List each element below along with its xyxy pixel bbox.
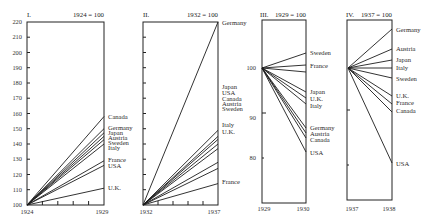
panel-4-lines xyxy=(348,29,392,163)
panel-2-roman: II. xyxy=(143,11,150,18)
xtick-end: 1937 xyxy=(208,208,222,215)
panel-1-base: 1924 = 100 xyxy=(73,11,105,18)
ytick: 100 xyxy=(246,64,256,71)
series-label: Japan xyxy=(396,56,412,63)
panel-4-frame xyxy=(347,20,392,200)
ytick: 190 xyxy=(12,64,22,71)
ytick: 80 xyxy=(250,154,256,161)
panel-1-ytick-labels: 220 210 200 190 180 170 160 150 140 130 … xyxy=(12,18,22,208)
series-label: France xyxy=(222,178,240,185)
series-label: Sweden xyxy=(310,49,332,56)
series-label: Italy xyxy=(108,144,121,151)
series-label: Canada xyxy=(108,113,128,120)
ytick: 110 xyxy=(13,186,22,193)
series-label: USA xyxy=(396,160,409,167)
panel-3-frame xyxy=(262,20,306,203)
series-label: Germany xyxy=(396,26,421,33)
xtick-start: 1932 xyxy=(140,208,153,215)
panel-1-frame xyxy=(27,22,104,205)
panel-1: I. 1924 = 100 220 210 200 190 180 170 16… xyxy=(12,11,133,215)
series-label: Austria xyxy=(396,45,415,52)
panel-1-roman: I. xyxy=(27,11,31,18)
panel-4-base: 1937 = 100 xyxy=(361,11,393,18)
panel-4: IV. 1937 = 100 Germany Austria Japan Ita… xyxy=(346,11,422,212)
series-label: France xyxy=(396,99,414,106)
ytick: 160 xyxy=(12,110,22,117)
series-label: U.K. xyxy=(396,92,409,99)
index-charts: I. 1924 = 100 220 210 200 190 180 170 16… xyxy=(0,0,433,221)
series-label: Sweden xyxy=(396,75,418,82)
ytick: 200 xyxy=(12,49,22,56)
series-label: Canada xyxy=(396,107,416,114)
series-label: Sweden xyxy=(222,105,244,112)
xtick-end: 1938 xyxy=(383,205,396,212)
panel-2-lines xyxy=(143,22,218,205)
series-label: France xyxy=(310,62,328,69)
panel-2-base: 1932 = 100 xyxy=(187,11,219,18)
panel-1-lines xyxy=(27,117,104,206)
ytick: 170 xyxy=(12,94,22,101)
panel-2: II. 1932 = 100 Germany Japan xyxy=(140,11,248,215)
series-label: Italy xyxy=(396,64,409,71)
series-label: Canada xyxy=(310,136,330,143)
xtick-start: 1929 xyxy=(258,205,271,212)
xtick-start: 1924 xyxy=(21,208,35,215)
panel-3: III. 1929 = 100 100 90 80 Sweden France … xyxy=(246,11,335,212)
panel-3-roman: III. xyxy=(260,11,269,18)
ytick: 180 xyxy=(12,79,22,86)
panel-4-roman: IV. xyxy=(346,11,354,18)
ytick: 120 xyxy=(12,171,22,178)
panel-2-series-labels: Germany Japan USA Canada Austria Sweden … xyxy=(222,19,247,185)
series-label: USA xyxy=(310,149,323,156)
series-label: Japan xyxy=(310,88,326,95)
xtick-end: 1929 xyxy=(96,208,109,215)
panel-3-ticks xyxy=(262,113,266,158)
panel-1-yticks xyxy=(27,37,89,205)
series-label: USA xyxy=(108,162,121,169)
panel-1-series-labels: Canada Germany Japan Austria Sweden Ital… xyxy=(108,113,133,191)
xtick-end: 1930 xyxy=(297,205,310,212)
ytick: 210 xyxy=(12,33,22,40)
panel-4-series-labels: Germany Austria Japan Italy Sweden U.K. … xyxy=(396,26,421,167)
ytick: 150 xyxy=(12,125,22,132)
series-label: U.K. xyxy=(310,95,323,102)
ytick: 220 xyxy=(12,18,22,25)
ytick: 90 xyxy=(250,114,256,121)
series-label: Italy xyxy=(310,102,323,109)
panel-3-lines xyxy=(262,53,306,152)
series-label: U.K. xyxy=(108,184,121,191)
panel-3-base: 1929 = 100 xyxy=(275,11,307,18)
panel-3-series-labels: Sweden France Japan U.K. Italy Germany A… xyxy=(310,49,335,156)
xtick-start: 1937 xyxy=(346,205,360,212)
ytick: 130 xyxy=(12,155,22,162)
series-label: Germany xyxy=(222,19,247,26)
series-label: U.K. xyxy=(222,128,235,135)
series-label: Italy xyxy=(222,121,235,128)
ytick: 140 xyxy=(12,140,22,147)
